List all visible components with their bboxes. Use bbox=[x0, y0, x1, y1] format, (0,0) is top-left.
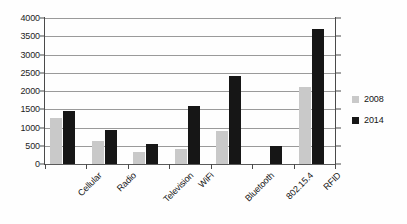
x-axis-label-cellular: Cellular bbox=[76, 171, 103, 198]
x-axis-label-bluetooth: Bluetooth bbox=[244, 171, 276, 203]
legend-item-2008: 2008 bbox=[352, 92, 406, 107]
x-axis-label-television: Television bbox=[162, 171, 195, 204]
legend-label-2014: 2014 bbox=[364, 116, 384, 125]
x-axis-label-radio: Radio bbox=[116, 171, 138, 193]
bar-chart: 05001000150020002500300035004000 Cellula… bbox=[0, 0, 407, 224]
x-axis-label-rfid: RFID bbox=[322, 171, 343, 192]
plot-wrapper: 05001000150020002500300035004000 Cellula… bbox=[0, 0, 407, 224]
x-axis-label-802-15-4: 802.15.4 bbox=[285, 171, 315, 201]
legend-swatch-icon-2008 bbox=[352, 96, 359, 103]
x-axis-label-wifi: WiFi bbox=[197, 171, 216, 190]
x-axis-category-labels: CellularRadioTelevisionWiFiBluetooth802.… bbox=[0, 0, 407, 224]
legend-label-2008: 2008 bbox=[364, 95, 384, 104]
legend-swatch-icon-2014 bbox=[352, 117, 359, 124]
chart-legend: 2008 2014 bbox=[352, 92, 406, 134]
legend-item-2014: 2014 bbox=[352, 113, 406, 128]
